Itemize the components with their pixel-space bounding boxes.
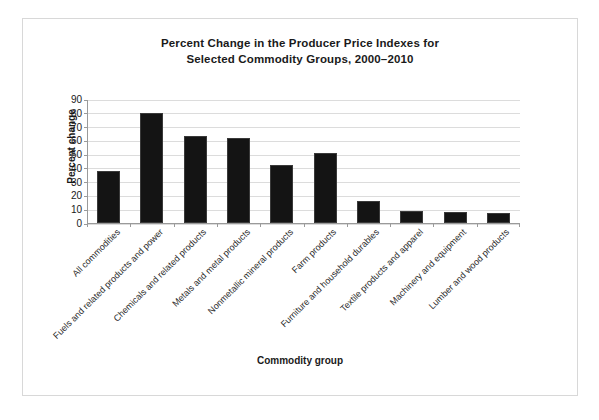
bar (444, 212, 467, 223)
y-axis-tick-label: 10 (71, 205, 82, 215)
x-axis-title: Commodity group (23, 355, 577, 366)
chart-title-line-1: Percent Change in the Producer Price Ind… (23, 35, 577, 51)
y-axis-tick-label: 60 (71, 136, 82, 146)
bar (140, 113, 163, 223)
bar (357, 201, 380, 223)
y-axis-tick-label: 50 (71, 150, 82, 160)
y-axis-tick-label: 70 (71, 123, 82, 133)
x-axis-category-label: Machinery and equipment (388, 227, 469, 308)
y-axis-tick-label: 80 (71, 109, 82, 119)
y-axis-line (87, 100, 88, 224)
x-axis-category-label: Lumber and wood products (427, 227, 512, 312)
bar (314, 153, 337, 223)
y-axis-tick-label: 20 (71, 191, 82, 201)
y-axis-tick-label: 30 (71, 178, 82, 188)
y-axis-tick-label: 0 (76, 219, 82, 229)
x-axis-category-label: Nonmetallic mineral products (206, 227, 296, 317)
bar (487, 213, 510, 223)
chart-figure: Percent Change in the Producer Price Ind… (22, 18, 578, 396)
x-axis-category-label: Metals and metal products (170, 227, 252, 309)
plot-area: 0102030405060708090 (87, 100, 520, 224)
bar (184, 136, 207, 223)
bar (227, 138, 250, 223)
chart-title-line-2: Selected Commodity Groups, 2000–2010 (23, 51, 577, 67)
bar (400, 211, 423, 223)
gridline (87, 100, 520, 101)
y-axis-tick-label: 90 (71, 95, 82, 105)
y-axis-tick-label: 40 (71, 164, 82, 174)
bar (97, 171, 120, 223)
plot-inner: 0102030405060708090 (87, 100, 520, 224)
bar (270, 165, 293, 223)
x-axis-category-label: Textile products and apparel (338, 227, 425, 314)
x-axis-category-labels: All commoditiesFuels and related product… (87, 227, 520, 367)
chart-title: Percent Change in the Producer Price Ind… (23, 35, 577, 67)
